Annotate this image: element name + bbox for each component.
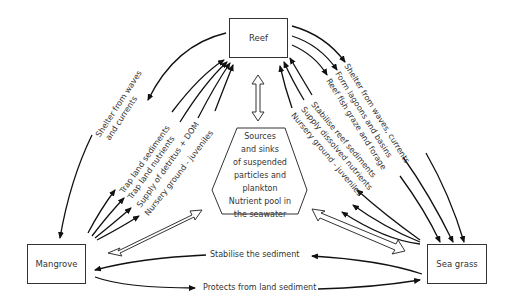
mangrove-node: Mangrove — [27, 244, 86, 284]
center-line: and sinks — [214, 143, 306, 156]
reef-label: Reef — [249, 33, 268, 43]
center-line: Sources — [214, 130, 306, 143]
seagrass-node: Sea grass — [427, 244, 487, 284]
ecosystem-diagram: Reef Mangrove Sea grass Sources and sink… — [0, 0, 519, 306]
seagrass-label: Sea grass — [436, 259, 478, 269]
mangrove-label: Mangrove — [35, 259, 77, 269]
label-stabilise-sediment: Stabilise the sediment — [210, 250, 299, 259]
center-line: Nutrient pool in — [214, 195, 306, 208]
reef-node: Reef — [229, 18, 288, 58]
center-line: particles and — [214, 169, 306, 182]
center-line: the seawater — [214, 208, 306, 221]
nutrient-pool-text: Sources and sinks of suspended particles… — [214, 130, 306, 221]
label-protects-land: Protects from land sediment — [203, 283, 316, 292]
center-line: of suspended — [214, 156, 306, 169]
center-line: plankton — [214, 182, 306, 195]
